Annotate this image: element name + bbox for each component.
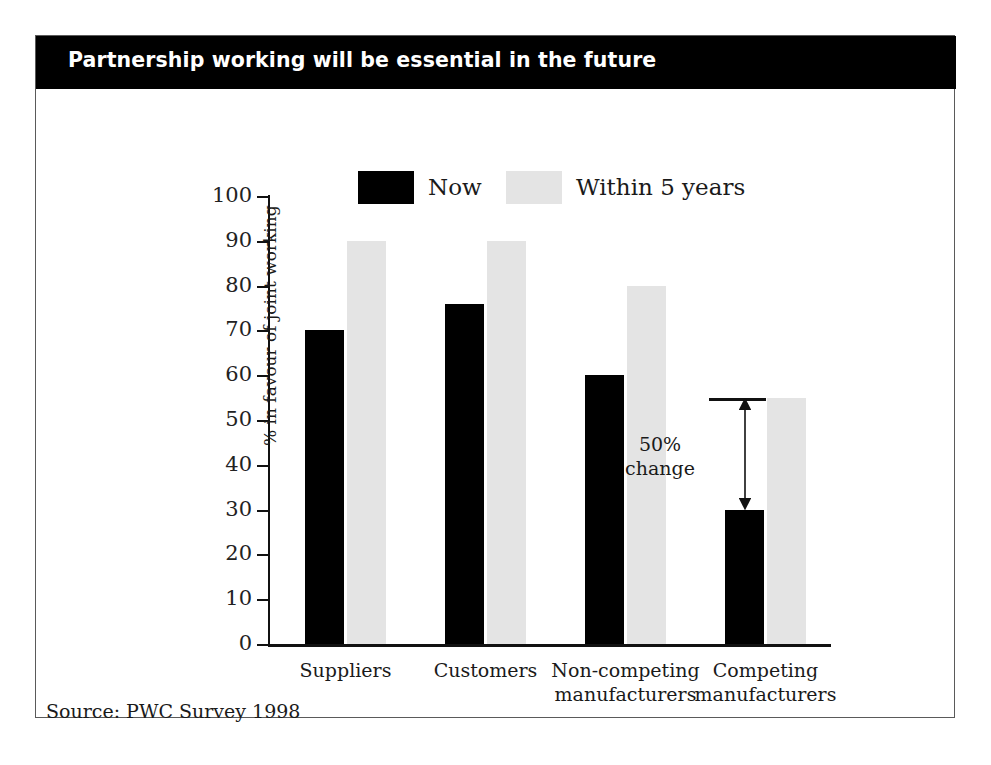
- y-axis-tick-label: 0: [194, 631, 252, 655]
- bar-within-5-years: [767, 398, 806, 644]
- y-axis-tick-label: 20: [194, 541, 252, 565]
- y-axis-tick-label: 10: [194, 586, 252, 610]
- bar-now: [445, 304, 484, 644]
- bar-now: [585, 375, 624, 644]
- y-axis-tick-label: 70: [194, 317, 252, 341]
- y-axis-tick-label: 60: [194, 362, 252, 386]
- y-axis-tick: [257, 465, 269, 467]
- slide-frame: Partnership working will be essential in…: [35, 35, 955, 718]
- annotation-double-arrow-icon: [727, 398, 763, 510]
- y-axis-tick-label: 50: [194, 407, 252, 431]
- bar-within-5-years: [487, 241, 526, 644]
- bar-now: [305, 330, 344, 644]
- x-axis-category-label: Competingmanufacturers: [678, 658, 854, 706]
- title-band: Partnership working will be essential in…: [36, 36, 956, 89]
- y-axis-tick: [257, 196, 269, 198]
- y-axis-tick-label: 40: [194, 452, 252, 476]
- y-axis-tick-label: 30: [194, 497, 252, 521]
- y-axis-tick-label: 100: [194, 183, 252, 207]
- page-title: Partnership working will be essential in…: [68, 48, 656, 72]
- y-axis-tick: [257, 510, 269, 512]
- y-axis-tick: [257, 644, 269, 646]
- bar-now: [725, 510, 764, 644]
- y-axis-tick: [257, 554, 269, 556]
- annotation-label: 50%change: [605, 432, 715, 480]
- y-axis-tick-label: 90: [194, 228, 252, 252]
- plot-area: 0102030405060708090100 % in favour of jo…: [268, 196, 831, 644]
- x-axis-line: [268, 644, 831, 647]
- y-axis-tick: [257, 599, 269, 601]
- source-note: Source: PWC Survey 1998: [46, 700, 300, 722]
- y-axis-title: % in favour of joint working: [260, 206, 280, 446]
- bar-within-5-years: [347, 241, 386, 644]
- chart-canvas: Now Within 5 years 010203040506070809010…: [36, 89, 954, 717]
- y-axis-tick-label: 80: [194, 273, 252, 297]
